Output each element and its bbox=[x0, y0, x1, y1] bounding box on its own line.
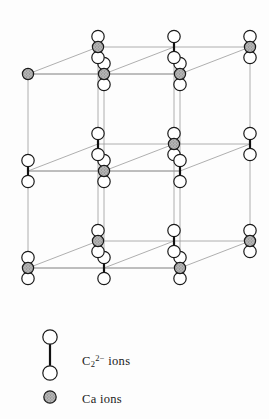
calcium-ion bbox=[244, 235, 255, 246]
calcium-ion bbox=[92, 235, 103, 246]
lattice-edge bbox=[104, 241, 174, 268]
lattice-edge bbox=[180, 144, 250, 171]
lattice-edges bbox=[28, 47, 250, 268]
carbon-atom-icon bbox=[22, 175, 34, 187]
calcium-ion bbox=[22, 68, 33, 79]
legend-label-carbide: C22− ions bbox=[82, 354, 130, 369]
lattice-edge bbox=[28, 47, 98, 74]
lattice-edge bbox=[28, 144, 98, 171]
carbon-atom-icon bbox=[244, 148, 256, 160]
carbon-atom-icon bbox=[168, 224, 180, 236]
carbon-atom-icon bbox=[22, 154, 34, 166]
lattice-edge bbox=[180, 241, 250, 268]
carbon-atom-icon bbox=[168, 51, 180, 63]
legend-marker-calcium bbox=[44, 391, 56, 403]
calcium-ion bbox=[174, 68, 185, 79]
calcium-ion bbox=[98, 165, 109, 176]
lattice-edge bbox=[104, 47, 174, 74]
calcium-ion bbox=[168, 138, 179, 149]
lattice-edge bbox=[104, 144, 174, 171]
calcium-ion bbox=[22, 262, 33, 273]
carbon-atom-icon bbox=[244, 127, 256, 139]
carbon-atom-icon bbox=[174, 175, 186, 187]
lattice-canvas bbox=[0, 0, 269, 419]
crystal-structure-figure bbox=[0, 0, 269, 419]
calcium-ion bbox=[174, 262, 185, 273]
lattice-edge bbox=[28, 241, 98, 268]
legend-markers bbox=[43, 330, 57, 403]
carbon-atom-icon bbox=[168, 245, 180, 257]
carbon-atom-icon bbox=[43, 366, 57, 380]
carbon-atom-icon bbox=[43, 330, 57, 344]
calcium-ion bbox=[92, 41, 103, 52]
legend-label-calcium: Ca ions bbox=[82, 392, 122, 407]
carbon-atom-icon bbox=[92, 148, 104, 160]
carbon-atom-icon bbox=[174, 154, 186, 166]
carbon-atom-icon bbox=[98, 272, 110, 284]
legend-marker-carbide bbox=[43, 330, 57, 380]
lattice-edge bbox=[180, 47, 250, 74]
carbon-atom-icon bbox=[92, 127, 104, 139]
carbon-atom-icon bbox=[168, 30, 180, 42]
calcium-ion bbox=[244, 41, 255, 52]
calcium-ion bbox=[98, 68, 109, 79]
